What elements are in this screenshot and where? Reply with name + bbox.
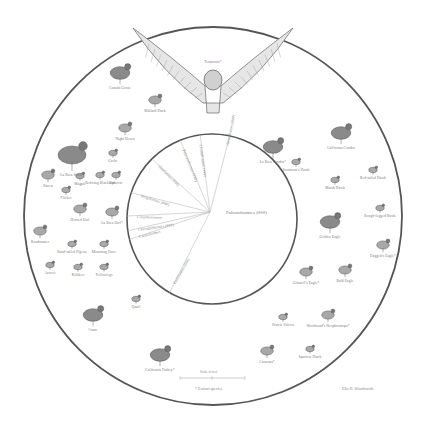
bird-label: Crane	[88, 328, 97, 332]
bird-label: Magpie	[74, 182, 86, 186]
bird-label: Mourning Dove	[92, 250, 116, 254]
labels-layer: Falconiformes (###) Scale in feet * Exti…	[0, 0, 427, 422]
scale-label: Scale in feet	[200, 370, 217, 374]
slice-label: Strigiformes (###)	[140, 193, 170, 207]
bird-label: La Brea Owl*	[101, 221, 123, 225]
bird-label: Grinnell's Eagle*	[293, 281, 320, 285]
bird-label: Woodward's Neophrontops*	[306, 324, 349, 328]
bird-label: Flicker	[61, 196, 72, 200]
slice-label: Galliformes (###)	[172, 257, 191, 284]
bird-label: La Brea Condor*	[260, 160, 286, 164]
bird-label: La Brea Stork*	[60, 173, 83, 177]
bird-label: Marsh Hawk	[325, 186, 345, 190]
bird-label: Mallard Duck	[144, 109, 165, 113]
bird-label: Band-tailed Pigeon	[57, 250, 86, 254]
bird-label: Swainson's Hawk	[282, 168, 309, 172]
bird-label: Yellowlegs	[95, 273, 112, 277]
bird-label: Sparrow Hawk	[299, 355, 322, 359]
bird-label: Teratornis*	[204, 60, 221, 64]
bird-label: Night Heron	[115, 137, 134, 141]
bird-label: Prairie Falcon	[272, 323, 294, 327]
bird-label: Red-tailed Hawk	[360, 176, 386, 180]
bird-label: California Turkey*	[145, 368, 174, 372]
slice-label: Anseriformes (###)	[225, 114, 236, 146]
bird-label: Sparrow	[110, 181, 123, 185]
bird-label: Avocet	[45, 271, 56, 275]
bird-label: Horned Owl	[71, 218, 90, 222]
bird-label: Caracara*	[259, 360, 274, 364]
bird-label: Bald Eagle	[337, 279, 354, 283]
extinct-footnote: * Extinct species	[195, 386, 222, 391]
bird-label: Raven	[43, 184, 53, 188]
slice-label: Columbiformes	[137, 214, 162, 220]
slice-label: Ciconiiformes (###)	[199, 144, 208, 177]
bird-label: Grebe	[108, 159, 117, 163]
bird-label: Killdeer	[72, 273, 85, 277]
artist-credit: Ella H. Woodwards	[342, 386, 373, 391]
bird-label: Roadrunner	[31, 240, 49, 244]
slice-label: Gruiformes (###)	[157, 164, 180, 187]
bird-label: Quail	[132, 305, 140, 309]
bird-label: California Condor	[327, 146, 355, 150]
bird-label: Golden Eagle	[320, 235, 341, 239]
bird-label: Rough-legged Hawk	[364, 214, 396, 218]
slice-label: Pelecaniformes (###)	[181, 148, 198, 182]
bird-label: Daggett's Eagle*	[370, 254, 396, 258]
bird-label: Canada Goose	[109, 86, 131, 90]
center-label: Falconiformes (###)	[226, 210, 267, 215]
